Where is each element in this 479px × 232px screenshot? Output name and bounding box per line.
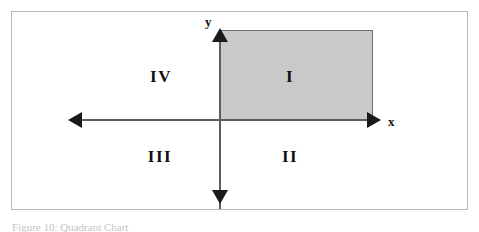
quadrant-label-iv: IV	[150, 68, 172, 85]
figure-root: x y I II III IV Figure 10: Quadrant Char…	[0, 0, 479, 232]
x-axis-left-arrow-icon	[68, 112, 82, 128]
shaded-quadrant-one-rectangle	[219, 30, 373, 120]
y-axis-label: y	[205, 15, 212, 28]
y-axis-line	[219, 33, 221, 210]
quadrant-label-ii: II	[282, 148, 298, 165]
x-axis-line	[72, 119, 379, 121]
quadrant-label-iii: III	[148, 148, 172, 165]
diagram-frame: x y I II III IV	[11, 11, 468, 210]
y-axis-up-arrow-icon	[212, 28, 228, 42]
x-axis-right-arrow-icon	[367, 112, 381, 128]
y-axis-down-arrow-icon	[212, 190, 228, 204]
quadrant-label-i: I	[286, 68, 294, 85]
figure-caption: Figure 10: Quadrant Chart	[12, 221, 462, 232]
x-axis-label: x	[388, 115, 395, 128]
